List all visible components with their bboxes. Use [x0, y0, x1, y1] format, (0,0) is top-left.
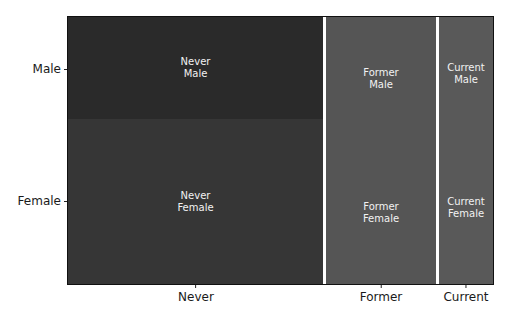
tile-never-female: Never Female	[68, 119, 323, 284]
tile-former-female: Former Female	[326, 141, 436, 284]
ytick-mark-female	[64, 201, 68, 202]
ytick-mark-male	[64, 69, 68, 70]
tile-label-never-female: Never Female	[177, 190, 213, 214]
ytick-male: Male	[33, 62, 68, 76]
xtick-former: Former	[360, 284, 403, 304]
tile-label-current-male: Current Male	[447, 62, 485, 86]
ytick-female: Female	[18, 194, 68, 208]
tile-former-male: Former Male	[326, 17, 436, 141]
xtick-mark-current	[465, 284, 466, 288]
tile-current-male: Current Male	[439, 17, 493, 131]
xtick-label-current: Current	[443, 290, 488, 304]
ytick-label-female: Female	[18, 194, 61, 208]
tile-label-current-female: Current Female	[447, 196, 485, 220]
xtick-mark-former	[380, 284, 381, 288]
tile-current-female: Current Female	[439, 131, 493, 284]
tile-label-former-female: Former Female	[363, 201, 399, 225]
xtick-label-former: Former	[360, 290, 403, 304]
xtick-never: Never	[178, 284, 214, 304]
xtick-mark-never	[196, 284, 197, 288]
tile-never-male: Never Male	[68, 17, 323, 119]
mosaic-plot-area: Never Male Never Female Former Male Form…	[68, 17, 493, 284]
tile-label-never-male: Never Male	[181, 56, 211, 80]
tile-label-former-male: Former Male	[363, 67, 398, 91]
xtick-label-never: Never	[178, 290, 214, 304]
ytick-label-male: Male	[33, 62, 61, 76]
xtick-current: Current	[443, 284, 488, 304]
